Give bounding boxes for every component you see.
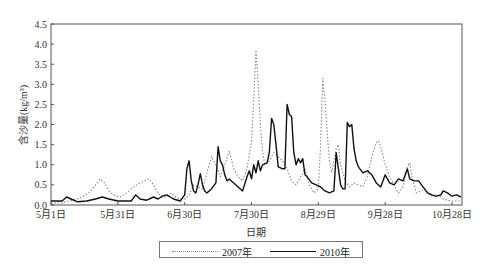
- x-tick-label: 7月30日: [234, 209, 269, 220]
- series-line-2010年: [51, 104, 461, 201]
- solid-line-swatch-icon: [270, 251, 316, 252]
- legend-item-2007: 2007年: [172, 244, 252, 259]
- y-tick-label: 2.5: [35, 99, 48, 110]
- x-axis-title: 日期: [246, 227, 266, 238]
- x-tick-label: 6月30日: [167, 209, 202, 220]
- series-group: [51, 50, 461, 203]
- legend-label: 2007年: [222, 244, 252, 259]
- y-tick-label: 4.5: [35, 19, 48, 30]
- legend-label: 2010年: [320, 244, 350, 259]
- line-chart: 0.00.51.01.52.02.53.03.54.04.5 5月1日5月31日…: [0, 0, 494, 240]
- y-tick-label: 0.5: [35, 179, 48, 190]
- y-tick-label: 1.5: [35, 139, 48, 150]
- y-tick-label: 2.0: [35, 119, 48, 130]
- x-tick-label: 5月1日: [36, 209, 66, 220]
- y-tick-label: 1.0: [35, 159, 48, 170]
- y-axis-title: 含沙量(kg/m³): [17, 85, 30, 145]
- dotted-line-swatch-icon: [172, 251, 218, 252]
- x-tick-label: 9月28日: [368, 209, 403, 220]
- y-tick-label: 3.0: [35, 79, 48, 90]
- legend-item-2010: 2010年: [270, 244, 350, 259]
- x-tick-label: 8月29日: [301, 209, 336, 220]
- y-tick-label: 4.0: [35, 39, 48, 50]
- legend: 2007年 2010年: [159, 241, 363, 258]
- x-tick-label: 10月28日: [432, 209, 472, 220]
- x-tick-label: 5月31日: [100, 209, 135, 220]
- y-tick-label: 3.5: [35, 59, 48, 70]
